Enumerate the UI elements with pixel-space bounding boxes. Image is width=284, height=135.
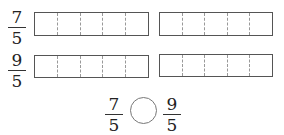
denominator: 5	[12, 30, 23, 47]
bar-segment[interactable]	[35, 13, 58, 35]
bar-segment[interactable]	[205, 55, 228, 76]
bar-segment[interactable]	[103, 56, 126, 77]
row1-bar-1[interactable]	[34, 12, 149, 36]
comparison-answer-circle[interactable]	[130, 97, 157, 124]
denominator: 5	[109, 117, 120, 134]
bar-segment[interactable]	[160, 55, 183, 76]
bar-segment[interactable]	[126, 56, 148, 77]
denominator: 5	[167, 117, 178, 134]
denominator: 5	[12, 73, 23, 90]
numerator: 7	[109, 96, 120, 113]
bar-segment[interactable]	[183, 55, 206, 76]
bar-segment[interactable]	[35, 56, 58, 77]
numerator: 9	[12, 52, 23, 69]
row1-fraction: 7 5	[8, 9, 26, 47]
bar-segment[interactable]	[126, 13, 148, 35]
comparison-left-fraction: 7 5	[105, 96, 123, 134]
bar-segment[interactable]	[81, 13, 104, 35]
bar-segment[interactable]	[81, 56, 104, 77]
row1-bar-2[interactable]	[159, 12, 273, 36]
bar-segment[interactable]	[103, 13, 126, 35]
numerator: 9	[167, 96, 178, 113]
bar-segment[interactable]	[228, 13, 251, 35]
bar-segment[interactable]	[183, 13, 206, 35]
bar-segment[interactable]	[250, 55, 272, 76]
bar-segment[interactable]	[250, 13, 272, 35]
bar-segment[interactable]	[205, 13, 228, 35]
bar-segment[interactable]	[58, 13, 81, 35]
numerator: 7	[12, 9, 23, 26]
row2-bar-1[interactable]	[34, 55, 149, 78]
comparison-right-fraction: 9 5	[163, 96, 181, 134]
bar-segment[interactable]	[228, 55, 251, 76]
row2-fraction: 9 5	[8, 52, 26, 90]
row2-bar-2[interactable]	[159, 54, 273, 77]
bar-segment[interactable]	[58, 56, 81, 77]
bar-segment[interactable]	[160, 13, 183, 35]
